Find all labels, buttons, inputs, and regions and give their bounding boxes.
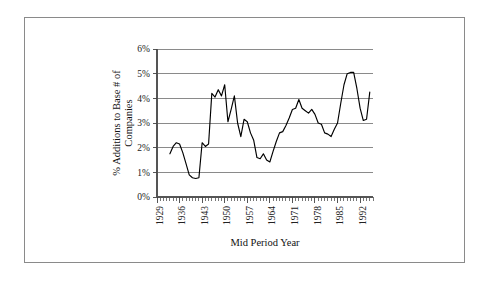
gridlines-group — [157, 49, 373, 172]
y-axis-title-line2: Companies — [123, 99, 134, 146]
y-tick-label-6%: 6% — [137, 44, 150, 54]
y-axis-tick-labels: 0%1%2%3%4%5%6% — [137, 44, 150, 202]
x-tick-label-1978: 1978 — [313, 206, 323, 225]
x-axis-tick-labels: 1929193619431950195719641971197819851992 — [155, 206, 368, 225]
y-tick-label-2%: 2% — [137, 143, 150, 153]
x-tick-label-1992: 1992 — [358, 206, 368, 225]
y-axis-title-line1: % Additions to Base # of — [111, 70, 122, 176]
y-axis-tick-marks — [153, 49, 157, 197]
y-tick-label-4%: 4% — [137, 94, 150, 104]
x-axis-minor-ticks — [157, 197, 373, 203]
chart-figure-frame: 0%1%2%3%4%5%6% 1929193619431950195719641… — [24, 17, 465, 263]
line-chart[interactable]: 0%1%2%3%4%5%6% 1929193619431950195719641… — [25, 18, 466, 264]
x-axis-title: Mid Period Year — [230, 237, 300, 248]
x-tick-label-1964: 1964 — [267, 206, 277, 225]
y-tick-label-1%: 1% — [137, 168, 150, 178]
data-series-line — [170, 72, 370, 178]
x-tick-label-1950: 1950 — [222, 206, 232, 225]
x-tick-label-1943: 1943 — [200, 206, 210, 225]
x-tick-label-1957: 1957 — [245, 206, 255, 225]
x-tick-label-1971: 1971 — [290, 206, 300, 225]
y-tick-label-0%: 0% — [137, 192, 150, 202]
x-tick-label-1929: 1929 — [155, 206, 165, 225]
x-tick-label-1985: 1985 — [335, 206, 345, 225]
y-tick-label-5%: 5% — [137, 69, 150, 79]
page-root: 0%1%2%3%4%5%6% 1929193619431950195719641… — [0, 0, 489, 285]
y-tick-label-3%: 3% — [137, 118, 150, 128]
x-tick-label-1936: 1936 — [177, 206, 187, 225]
